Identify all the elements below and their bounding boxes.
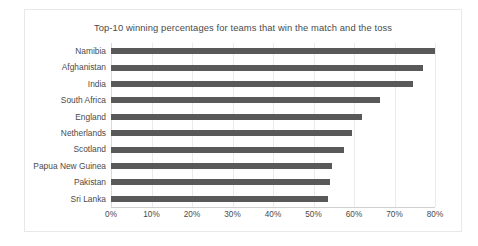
bar — [111, 48, 435, 54]
bar — [111, 147, 344, 153]
bar-row: Sri Lanka — [111, 191, 435, 207]
x-tick-label: 20% — [184, 210, 200, 219]
bar-row: Pakistan — [111, 174, 435, 190]
x-axis-tick-labels: 0%10%20%30%40%50%60%70%80% — [111, 210, 435, 224]
x-axis-line — [111, 207, 435, 208]
x-tick-label: 40% — [265, 210, 281, 219]
bar-row: Namibia — [111, 43, 435, 59]
category-label: Pakistan — [74, 178, 106, 186]
bar-row: England — [111, 109, 435, 125]
bar-row: India — [111, 76, 435, 92]
x-tick-label: 0% — [105, 210, 117, 219]
bar — [111, 163, 332, 169]
bar-row: Scotland — [111, 141, 435, 157]
category-label: South Africa — [61, 96, 106, 104]
category-label: Sri Lanka — [71, 195, 106, 203]
bar — [111, 196, 328, 202]
x-tick-label: 50% — [305, 210, 321, 219]
bar-rows: NamibiaAfghanistanIndiaSouth AfricaEngla… — [111, 43, 435, 207]
bar-row: Papua New Guinea — [111, 158, 435, 174]
bar-row: Netherlands — [111, 125, 435, 141]
category-label: India — [88, 80, 106, 88]
category-label: Netherlands — [61, 129, 106, 137]
chart-frame: Top-10 winning percentages for teams tha… — [24, 9, 462, 232]
category-label: Afghanistan — [62, 63, 106, 71]
bar — [111, 114, 362, 120]
bar — [111, 65, 423, 71]
category-label: England — [75, 113, 106, 121]
bar — [111, 130, 352, 136]
x-tick-label: 10% — [143, 210, 159, 219]
x-tick-label: 30% — [224, 210, 240, 219]
category-label: Scotland — [73, 145, 106, 153]
bar — [111, 97, 380, 103]
bar-row: South Africa — [111, 92, 435, 108]
plot-area: NamibiaAfghanistanIndiaSouth AfricaEngla… — [111, 43, 435, 207]
bar — [111, 179, 330, 185]
chart-title: Top-10 winning percentages for teams tha… — [25, 22, 461, 33]
x-tick-label: 80% — [427, 210, 443, 219]
gridline — [435, 43, 436, 207]
bar — [111, 81, 413, 87]
category-label: Papua New Guinea — [33, 162, 106, 170]
bar-row: Afghanistan — [111, 59, 435, 75]
x-tick-label: 70% — [386, 210, 402, 219]
x-tick-label: 60% — [346, 210, 362, 219]
category-label: Namibia — [75, 47, 106, 55]
